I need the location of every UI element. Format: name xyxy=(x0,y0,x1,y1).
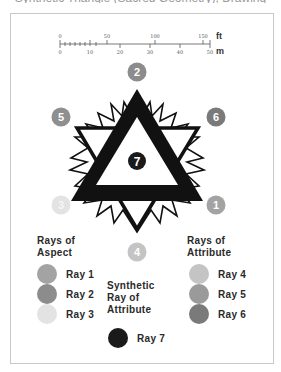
legend-item-ray-5: Ray 5 xyxy=(189,284,246,304)
ray-6-marker-label: 6 xyxy=(213,111,219,123)
legend-label: Ray 3 xyxy=(66,309,94,320)
m-tick: 50 xyxy=(207,49,213,55)
attribute-title-line: Rays of xyxy=(187,235,231,247)
legend-item-ray-7: Ray 7 xyxy=(108,328,165,348)
ray-1-swatch xyxy=(37,264,57,284)
ray-5-marker-label: 5 xyxy=(58,111,64,123)
ray-5-swatch xyxy=(189,284,209,304)
legend-label: Ray 5 xyxy=(218,289,246,300)
synthetic-title-line: Synthetic xyxy=(107,280,155,292)
ft-tick: 100 xyxy=(150,33,160,39)
aspect-title-line: Rays of xyxy=(37,235,75,247)
legend-item-ray-6: Ray 6 xyxy=(189,304,246,324)
aspect-legend-title: Rays of Aspect xyxy=(37,235,75,259)
ray-3-swatch xyxy=(37,304,57,324)
m-tick: 10 xyxy=(87,49,93,55)
synthetic-title-line: Ray of xyxy=(107,292,155,304)
ray-4-marker-label: 4 xyxy=(134,246,141,258)
ray-7-swatch xyxy=(108,328,128,348)
ft-tick: 0 xyxy=(58,33,61,39)
ray-4-swatch xyxy=(189,264,209,284)
legend-label: Ray 6 xyxy=(218,309,246,320)
aspect-title-line: Aspect xyxy=(37,247,75,259)
ray-3-marker-label: 3 xyxy=(58,199,64,211)
m-tick: 40 xyxy=(177,49,183,55)
legend-item-ray-4: Ray 4 xyxy=(189,264,246,284)
legend-label: Ray 2 xyxy=(66,289,94,300)
ray-7-marker-label: 7 xyxy=(134,155,141,169)
ft-tick: 50 xyxy=(104,33,110,39)
scale-bar xyxy=(60,40,210,48)
ray-6-swatch xyxy=(189,304,209,324)
ray-1-marker-label: 1 xyxy=(213,199,219,211)
legend-label: Ray 1 xyxy=(66,269,94,280)
legend-item-ray-3: Ray 3 xyxy=(37,304,94,324)
attribute-title-line: Attribute xyxy=(187,247,231,259)
synthetic-legend-title: Synthetic Ray of Attribute xyxy=(107,280,155,316)
ft-unit-label: ft xyxy=(216,31,222,41)
legend-label: Ray 7 xyxy=(137,333,165,344)
ray-2-swatch xyxy=(37,284,57,304)
ray-2-marker-label: 2 xyxy=(134,66,140,78)
m-tick: 20 xyxy=(117,49,123,55)
attribute-legend-title: Rays of Attribute xyxy=(187,235,231,259)
ft-tick: 150 xyxy=(198,33,208,39)
m-tick: 0 xyxy=(58,49,61,55)
legend-label: Ray 4 xyxy=(218,269,246,280)
synthetic-title-line: Attribute xyxy=(107,304,155,316)
m-tick: 30 xyxy=(147,49,153,55)
m-unit-label: m xyxy=(216,46,224,56)
legend-item-ray-2: Ray 2 xyxy=(37,284,94,304)
legend-item-ray-1: Ray 1 xyxy=(37,264,94,284)
